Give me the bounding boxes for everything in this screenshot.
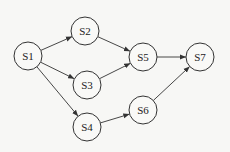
arrow-icon [98, 37, 130, 52]
edge-s2-s5 [98, 37, 130, 52]
node-s1: S1 [14, 42, 42, 70]
node-label: S6 [137, 104, 149, 116]
node-s2: S2 [71, 17, 99, 45]
node-label: S3 [81, 79, 93, 91]
node-s5: S5 [129, 43, 157, 71]
arrow-icon [153, 67, 189, 101]
node-label: S1 [22, 50, 34, 62]
edge-s1-s4 [37, 67, 78, 116]
edge-s3-s5 [100, 63, 131, 78]
node-label: S7 [194, 51, 206, 63]
node-s6: S6 [129, 96, 157, 124]
nodes-group: S1S2S3S4S5S6S7 [14, 17, 214, 141]
node-label: S4 [81, 121, 93, 133]
directed-graph: S1S2S3S4S5S6S7 [0, 0, 230, 152]
node-label: S2 [79, 25, 91, 37]
arrow-icon [100, 63, 131, 78]
edge-s1-s2 [41, 37, 72, 51]
edges-group [37, 37, 190, 123]
arrow-icon [100, 114, 129, 123]
arrow-icon [37, 67, 78, 116]
arrow-icon [41, 62, 75, 79]
node-label: S5 [137, 51, 149, 63]
edge-s1-s3 [41, 62, 75, 79]
edge-s4-s6 [100, 114, 129, 123]
node-s3: S3 [73, 71, 101, 99]
graph-canvas: S1S2S3S4S5S6S7 [0, 0, 230, 152]
node-s7: S7 [186, 43, 214, 71]
edge-s6-s7 [153, 67, 189, 101]
node-s4: S4 [73, 113, 101, 141]
arrow-icon [41, 37, 72, 51]
